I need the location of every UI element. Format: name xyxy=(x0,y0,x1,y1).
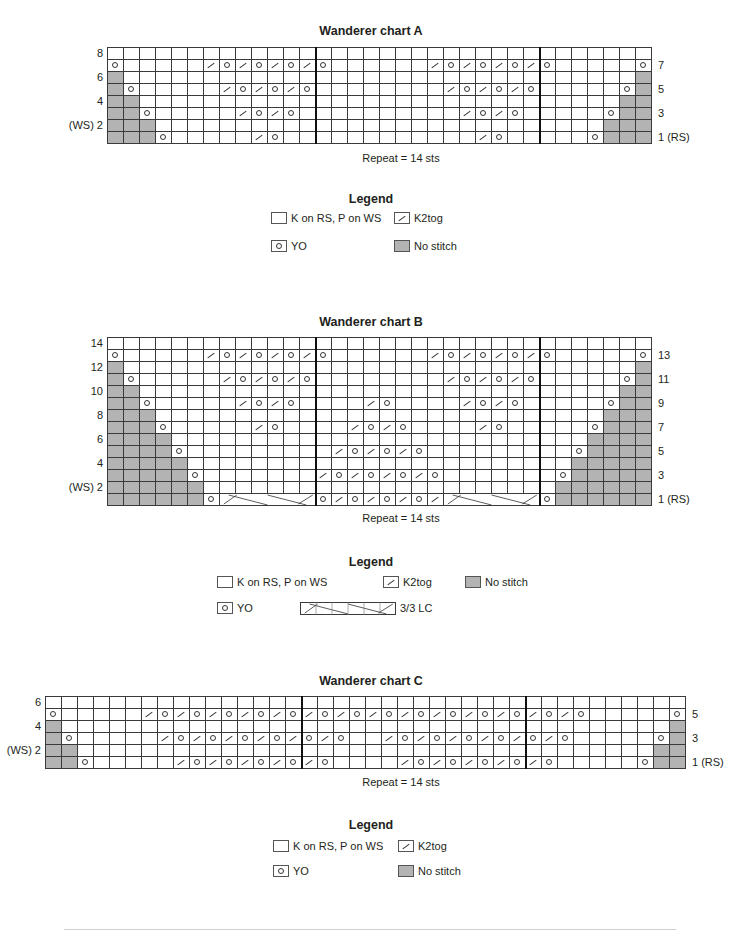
yo-symbol-icon xyxy=(528,86,534,92)
yo-symbol-icon xyxy=(482,759,488,765)
yo-symbol-icon xyxy=(464,86,470,92)
yo-symbol-icon xyxy=(144,110,150,116)
legend-label-k2tog: K2tog xyxy=(403,575,432,589)
stitch-cell xyxy=(621,756,638,769)
yo-symbol-icon xyxy=(578,711,584,717)
yo-symbol-icon xyxy=(642,759,648,765)
yo-symbol-icon xyxy=(256,352,262,358)
k2tog-symbol-icon xyxy=(387,580,394,585)
knit-purl-box-icon xyxy=(271,212,287,224)
yo-symbol-icon xyxy=(512,352,518,358)
yo-symbol-icon xyxy=(288,400,294,406)
yo-symbol-icon xyxy=(480,352,486,358)
yo-symbol-icon xyxy=(496,86,502,92)
k2tog-box-icon xyxy=(398,840,414,852)
yo-symbol-icon xyxy=(272,376,278,382)
yo-symbol-icon xyxy=(144,400,150,406)
k2tog-symbol-icon xyxy=(402,844,409,849)
row-label-7: 7 xyxy=(658,59,664,71)
yo-symbol-icon xyxy=(162,711,168,717)
yo-symbol-icon xyxy=(242,735,248,741)
stitch-cell xyxy=(605,756,622,769)
yo-symbol-icon xyxy=(322,711,328,717)
no-stitch-cell xyxy=(635,493,652,506)
yo-symbol-icon xyxy=(546,759,552,765)
yo-symbol-icon xyxy=(658,735,664,741)
yo-symbol-icon xyxy=(50,711,56,717)
yo-symbol-icon xyxy=(512,62,518,68)
yo-symbol-icon xyxy=(386,711,392,717)
yo-symbol-icon xyxy=(336,472,342,478)
knit-purl-box-icon xyxy=(217,576,233,588)
legend-label-yo: YO xyxy=(293,864,309,878)
legend-item-yo: YO xyxy=(273,864,309,878)
yo-symbol-icon xyxy=(176,448,182,454)
yo-symbol-icon xyxy=(496,376,502,382)
yo-symbol-icon xyxy=(288,110,294,116)
row-label-3: 3 xyxy=(658,107,664,119)
legend-item-nostitch: No stitch xyxy=(394,239,457,253)
legend-label-empty: K on RS, P on WS xyxy=(293,839,383,853)
yo-symbol-icon xyxy=(432,472,438,478)
chart-c-legend-title: Legend xyxy=(0,818,742,832)
stitch-cell xyxy=(379,131,396,144)
stitch-cell xyxy=(557,756,574,769)
yo-symbol-icon xyxy=(466,735,472,741)
row-label-11: 11 xyxy=(658,373,669,385)
row-label-1: 1 (RS) xyxy=(658,131,690,143)
yo-symbol-icon xyxy=(368,424,374,430)
yo-symbol-icon xyxy=(416,496,422,502)
row-label-14: 14 xyxy=(91,337,103,349)
yo-box-icon xyxy=(271,240,287,252)
row-label-3: 3 xyxy=(692,732,698,744)
no-stitch-cell xyxy=(603,131,620,144)
yo-symbol-icon xyxy=(160,424,166,430)
k2tog-symbol-icon xyxy=(398,216,405,221)
yo-symbol-icon xyxy=(224,352,230,358)
row-label-2: (WS) 2 xyxy=(69,119,103,131)
yo-symbol-icon xyxy=(384,448,390,454)
yo-symbol-icon xyxy=(480,110,486,116)
yo-symbol-icon xyxy=(320,352,326,358)
row-label-1: 1 (RS) xyxy=(658,493,690,505)
yo-symbol-icon xyxy=(640,62,646,68)
row-label-8: 8 xyxy=(97,47,103,59)
legend-label-k2tog: K2tog xyxy=(418,839,447,853)
stitch-cell xyxy=(395,131,412,144)
row-label-10: 10 xyxy=(91,385,103,397)
yo-symbol-icon xyxy=(320,62,326,68)
repeat-boundary-line xyxy=(539,47,541,144)
legend-item-yo: YO xyxy=(271,239,307,253)
stitch-cell xyxy=(459,131,476,144)
yo-symbol-icon xyxy=(82,759,88,765)
repeat-boundary-line xyxy=(315,47,317,144)
stitch-cell xyxy=(381,756,398,769)
yo-symbol-icon xyxy=(112,62,118,68)
yo-symbol-icon xyxy=(304,86,310,92)
row-label-5: 5 xyxy=(658,83,664,95)
yo-symbol-icon xyxy=(384,496,390,502)
chart-b-grid: 141210864(WS) 2131197531 (RS) xyxy=(107,337,651,505)
yo-symbol-icon xyxy=(608,110,614,116)
yo-symbol-icon xyxy=(240,376,246,382)
yo-symbol-icon xyxy=(192,472,198,478)
stitch-cell xyxy=(555,131,572,144)
yo-symbol-icon xyxy=(640,352,646,358)
yo-symbol-icon xyxy=(482,711,488,717)
yo-symbol-icon xyxy=(480,400,486,406)
yo-symbol-icon xyxy=(434,735,440,741)
stitch-cell xyxy=(109,756,126,769)
no-stitch-box-icon xyxy=(398,865,414,877)
yo-symbol-icon xyxy=(274,735,280,741)
no-stitch-cell xyxy=(155,493,172,506)
stitch-cell xyxy=(331,131,348,144)
row-label-3: 3 xyxy=(658,469,664,481)
row-label-1: 1 (RS) xyxy=(692,756,724,768)
row-label-4: 4 xyxy=(97,457,103,469)
yo-symbol-icon xyxy=(592,424,598,430)
stitch-cell xyxy=(187,131,204,144)
yo-symbol-icon xyxy=(464,376,470,382)
row-label-2: (WS) 2 xyxy=(69,481,103,493)
row-label-9: 9 xyxy=(658,397,664,409)
cable-3-3-lc-icon xyxy=(300,602,396,615)
